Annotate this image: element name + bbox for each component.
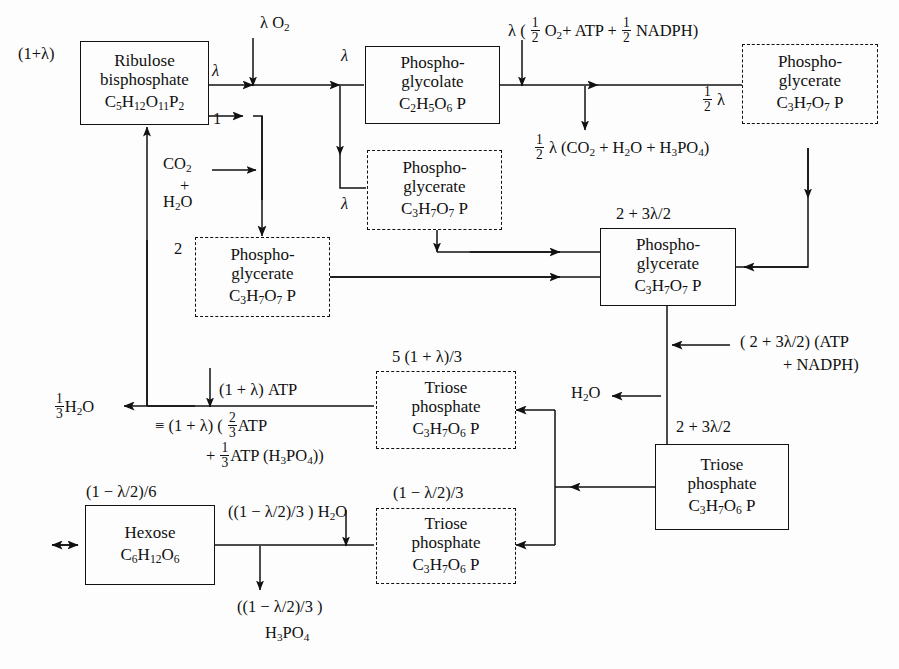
box-title-line1: Ribulose (114, 51, 174, 70)
label-lambda-o2: λ O2 (260, 14, 290, 34)
box-formula: C2H5O6 P (399, 94, 466, 116)
box-phosphoglycerate-topright[interactable]: Phospho- glycerate C3H7O7 P (742, 44, 878, 124)
label-lambda-rubisco-oxygenation: λ (212, 62, 219, 81)
box-formula: C5H12O11P2 (105, 92, 185, 114)
box-formula: C3H7O7 P (229, 286, 296, 308)
box-title-line1: Hexose (125, 523, 176, 542)
box-title-line1: Triose (425, 378, 468, 397)
label-one-carboxylation: 1 (213, 110, 221, 129)
label-atp-equivalence-line1: ≡ (1 + λ) ( 23ATP (155, 411, 267, 440)
box-formula: C3H7O6 P (689, 496, 756, 518)
label-lambda-mid-phosphoglycerate: λ (341, 195, 348, 214)
label-h2o-released: H2O (571, 384, 600, 404)
box-formula: C3H7O7 P (401, 199, 468, 221)
box-title-line1: Phospho- (636, 235, 700, 254)
label-h3po4: H3PO4 (265, 624, 309, 644)
box-title-line1: Phospho- (400, 53, 464, 72)
box-title-line2: glycolate (401, 72, 463, 91)
box-title-line2: glycerate (637, 254, 699, 273)
label-half-lambda-products: 12 λ (CO2 + H2O + H3PO4) (534, 133, 709, 162)
box-ribulose-bisphosphate[interactable]: Ribulose bisphosphate C5H12O11P2 (80, 41, 209, 125)
label-atp-equivalence-line2: + 13ATP (H3PO4)) (206, 441, 324, 470)
box-phosphoglycolate[interactable]: Phospho- glycolate C2H5O6 P (365, 46, 500, 124)
box-title-line2: glycerate (403, 177, 465, 196)
box-title-line2: phosphate (688, 474, 757, 493)
pathway-diagram: Ribulose bisphosphate C5H12O11P2 Phospho… (0, 0, 899, 669)
label-atp-nadph-consumed-cont: + NADPH) (783, 356, 859, 375)
label-hexose-water-released: ((1 − λ/2)/3 ) H2O (228, 503, 347, 523)
label-h2o-carboxylation: H2O (163, 193, 192, 213)
box-title-line2: phosphate (412, 397, 481, 416)
label-one-third-h2o: 13H2O (54, 392, 94, 421)
box-formula: C3H7O7 P (635, 276, 702, 298)
box-title-line1: Phospho- (778, 52, 842, 71)
box-phosphoglycerate-left[interactable]: Phospho- glycerate C3H7O7 P (195, 237, 330, 317)
label-atp-nadph-consumed: ( 2 + 3λ/2) (ATP (740, 333, 849, 352)
label-triose-upper-coefficient: 5 (1 + λ)/3 (392, 348, 462, 367)
box-title-line1: Phospho- (230, 245, 294, 264)
box-title-line2: glycerate (779, 71, 841, 90)
box-title-line1: Phospho- (402, 158, 466, 177)
box-formula: C3H7O6 P (413, 555, 480, 577)
label-ribulose-input-coefficient: (1+λ) (18, 45, 55, 64)
label-triose-right-coefficient: 2 + 3λ/2 (676, 418, 731, 437)
label-two-phosphoglycerate: 2 (174, 240, 182, 259)
label-hexose-coefficient: (1 − λ/2)/6 (86, 483, 156, 502)
box-phosphoglycerate-main[interactable]: Phospho- glycerate C3H7O7 P (600, 228, 736, 306)
label-lambda-into-phosphoglycolate: λ (341, 47, 348, 66)
box-formula: C3H7O6 P (413, 419, 480, 441)
label-co2: CO2 (163, 155, 192, 175)
box-title-line2: glycerate (231, 264, 293, 283)
box-triose-phosphate-upper[interactable]: Triose phosphate C3H7O6 P (376, 371, 516, 449)
box-title-line1: Triose (425, 514, 468, 533)
box-hexose[interactable]: Hexose C6H12O6 (85, 505, 215, 585)
box-title-line1: Triose (701, 455, 744, 474)
label-triose-lower-coefficient: (1 − λ/2)/3 (393, 484, 463, 503)
box-triose-phosphate-lower[interactable]: Triose phosphate C3H7O6 P (376, 508, 516, 584)
label-pg-main-coefficient: 2 + 3λ/2 (616, 205, 671, 224)
label-atp-input: (1 + λ) ATP (219, 381, 297, 400)
box-title-line2: phosphate (412, 533, 481, 552)
box-triose-phosphate-right[interactable]: Triose phosphate C3H7O6 P (655, 444, 789, 530)
box-title-line2: bisphosphate (100, 70, 189, 89)
box-formula: C6H12O6 (120, 545, 179, 567)
box-phosphoglycerate-middle[interactable]: Phospho- glycerate C3H7O7 P (367, 150, 502, 230)
label-o2-atp-nadph-input: λ ( 12 O2+ ATP + 12 NADPH) (508, 16, 698, 45)
label-half-lambda-into-pg: 12 λ (702, 85, 725, 114)
box-formula: C3H7O7 P (777, 93, 844, 115)
label-h3po4-coefficient: ((1 − λ/2)/3 ) (237, 598, 323, 617)
